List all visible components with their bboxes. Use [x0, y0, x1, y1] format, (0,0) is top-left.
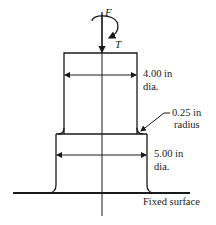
upper-left-fillet: [58, 128, 64, 134]
upper-dia-label-2: dia.: [143, 81, 158, 92]
fixed-surface-label: Fixed surface: [143, 196, 200, 207]
force-label: F: [104, 6, 112, 18]
lower-dia-label-1: 5.00 in: [154, 148, 184, 159]
upper-dia-label-1: 4.00 in: [143, 68, 173, 79]
upper-right-fillet: [137, 128, 143, 134]
fillet-label-1: 0.25 in: [172, 107, 202, 118]
lower-dia-label-2: dia.: [154, 161, 169, 172]
upper-shaft-section: [64, 53, 137, 134]
torque-arrow-icon: [92, 16, 118, 38]
torque-label: T: [115, 38, 122, 50]
fillet-label-2: radius: [174, 119, 200, 130]
fillet-leader-line: [141, 113, 170, 131]
shaft-diagram: F T 4.00 in dia. 0.25 in radius 5.00 in …: [0, 0, 216, 225]
